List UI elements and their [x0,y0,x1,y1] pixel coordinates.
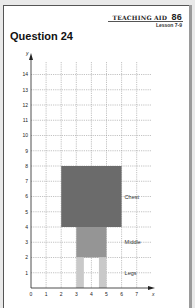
y-tick-label: 1 [25,270,28,276]
shape-chest [61,166,121,227]
label-chest: Chest [125,194,140,200]
y-axis-label: y [25,50,29,56]
x-tick-label: 7 [135,291,138,297]
y-tick-label: 13 [22,87,28,93]
x-axis-label: x [151,291,155,297]
x-axis-arrow-icon [148,286,155,290]
x-tick-label: 0 [30,291,33,297]
y-tick-label: 4 [25,224,28,230]
label-middle: Middle [125,239,141,245]
shape-leg-left [76,258,84,289]
y-tick-label: 2 [25,254,28,260]
y-tick-label: 7 [25,178,28,184]
shape-leg-right [99,258,107,289]
x-tick-label: 6 [120,291,123,297]
y-axis-arrow-icon [29,53,33,60]
x-tick-label: 4 [90,291,93,297]
y-tick-label: 5 [25,209,28,215]
y-tick-label: 14 [22,71,28,77]
y-tick-label: 8 [25,163,28,169]
y-tick-label: 3 [25,239,28,245]
x-tick-label: 3 [75,291,78,297]
y-tick-label: 12 [22,102,28,108]
y-tick-label: 10 [22,132,28,138]
label-legs: Legs [125,270,137,276]
y-tick-label: 11 [23,117,28,123]
x-tick-label: 2 [60,291,63,297]
shape-middle [76,227,106,258]
x-tick-label: 1 [45,291,48,297]
y-tick-label: 9 [25,148,28,154]
x-tick-label: 5 [105,291,108,297]
y-tick-label: 6 [25,193,28,199]
